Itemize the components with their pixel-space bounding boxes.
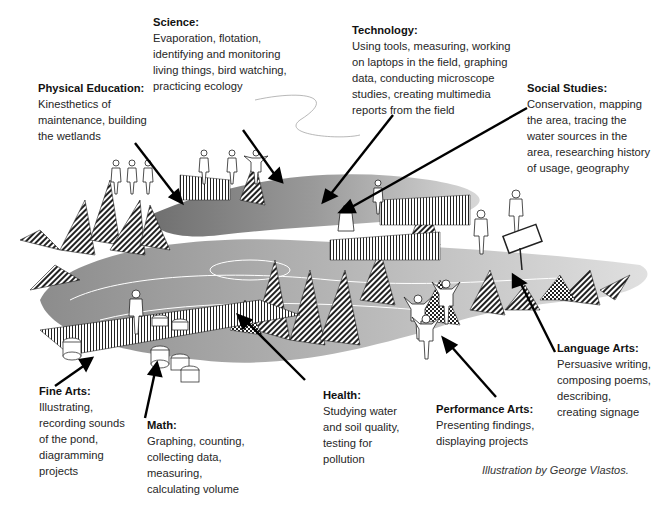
illustration-credit: Illustration by George Vlastos. xyxy=(482,464,629,476)
label-math: Math: Graphing, counting, collecting dat… xyxy=(147,417,245,497)
label-title: Language Arts: xyxy=(557,340,651,356)
label-body: Studying water and soil quality, testing… xyxy=(323,403,399,467)
label-title: Technology: xyxy=(352,22,511,38)
label-title: Science: xyxy=(153,14,287,30)
label-health: Health: Studying water and soil quality,… xyxy=(323,387,399,467)
label-language-arts: Language Arts: Persuasive writing, compo… xyxy=(557,340,651,420)
label-science: Science: Evaporation, flotation, identif… xyxy=(153,14,287,94)
label-performance-arts: Performance Arts: Presenting findings, d… xyxy=(436,401,534,449)
label-body: Presenting findings, displaying projects xyxy=(436,417,534,449)
label-social-studies: Social Studies: Conservation, mapping th… xyxy=(527,80,650,176)
label-physical-education: Physical Education: Kinesthetics of main… xyxy=(38,80,147,144)
label-body: Kinesthetics of maintenance, building th… xyxy=(38,96,147,144)
label-title: Health: xyxy=(323,387,399,403)
label-title: Physical Education: xyxy=(38,80,147,96)
label-body: Persuasive writing, composing poems, des… xyxy=(557,356,651,420)
label-body: Using tools, measuring, working on lapto… xyxy=(352,38,511,118)
label-fine-arts: Fine Arts: Illustrating, recording sound… xyxy=(39,383,125,479)
label-body: Evaporation, flotation, identifying and … xyxy=(153,30,287,94)
label-title: Fine Arts: xyxy=(39,383,125,399)
label-body: Illustrating, recording sounds of the po… xyxy=(39,399,125,479)
label-title: Math: xyxy=(147,417,245,433)
label-title: Performance Arts: xyxy=(436,401,534,417)
label-body: Graphing, counting, collecting data, mea… xyxy=(147,433,245,497)
label-technology: Technology: Using tools, measuring, work… xyxy=(352,22,511,118)
label-title: Social Studies: xyxy=(527,80,650,96)
label-body: Conservation, mapping the area, tracing … xyxy=(527,96,650,176)
